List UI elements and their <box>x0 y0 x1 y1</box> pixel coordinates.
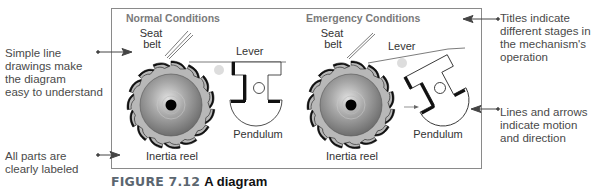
label-lever-emergency: Lever <box>388 40 416 52</box>
pivot-emergency <box>397 58 407 68</box>
motion-arrow-icon <box>404 105 419 109</box>
panel-title-emergency: Emergency Conditions <box>306 12 421 24</box>
figure-caption: FIGURE 7.12A diagram <box>111 174 267 189</box>
figure-title: A diagram <box>204 174 267 189</box>
callout-arrow-icon <box>471 106 499 113</box>
label-belt-emergency: belt <box>324 38 342 50</box>
label-belt-normal: belt <box>143 38 161 50</box>
label-reel-emergency: Inertia reel <box>326 150 378 162</box>
figure-number: FIGURE 7.12 <box>111 174 200 189</box>
pivot-normal <box>214 65 224 75</box>
pendulum-normal <box>230 62 282 126</box>
label-pendulum-normal: Pendulum <box>233 128 283 140</box>
label-reel-normal: Inertia reel <box>146 150 198 162</box>
seat-belt-straps-emergency <box>347 33 375 59</box>
callout-arrow-icon <box>97 152 120 159</box>
inertia-reel-emergency <box>305 59 397 151</box>
seat-belt-straps-normal <box>165 31 193 59</box>
label-pendulum-emergency: Pendulum <box>413 128 463 140</box>
seat-belt-diagram: Normal Conditions Emergency Conditions S… <box>0 0 592 190</box>
panel-title-normal: Normal Conditions <box>126 12 220 24</box>
inertia-reel-normal <box>125 59 217 151</box>
pendulum-emergency <box>402 54 478 135</box>
label-lever-normal: Lever <box>236 45 264 57</box>
callout-arrow-icon <box>97 49 132 56</box>
